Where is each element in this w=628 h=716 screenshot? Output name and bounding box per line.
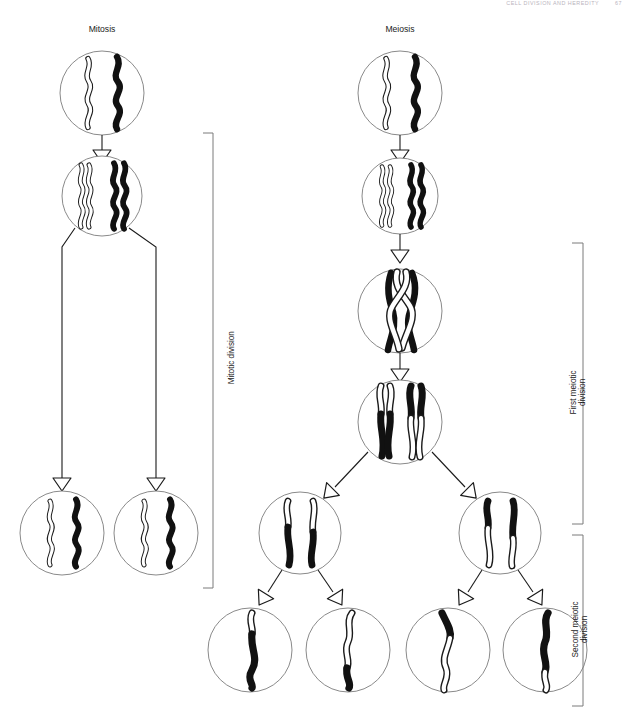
second-meiotic-division-label: Second meiotic division: [571, 549, 590, 709]
meiosis-branch: [208, 51, 587, 706]
mitosis-arrow-right: [147, 478, 165, 491]
meiosis-arrow-gamete-4: [527, 589, 549, 610]
first-meiotic-division-line2: division: [578, 322, 587, 462]
mitosis-replicated-cell: [62, 156, 142, 236]
meiosis-parent-cell: [358, 51, 442, 135]
meiosis-secondary-cell-right: [459, 492, 541, 574]
meiosis-arrow-gamete-3: [451, 589, 473, 610]
first-meiotic-division-line1: First meiotic: [569, 322, 578, 462]
second-meiotic-division-line1: Second meiotic: [571, 549, 580, 709]
meiosis-replicated-cell: [362, 158, 438, 234]
second-meiotic-division-line2: division: [580, 549, 589, 709]
meiosis-crossing-over-cell: [358, 269, 442, 353]
mitotic-division-label: Mitotic division: [227, 298, 236, 418]
meiosis-arrow-2: [391, 250, 409, 263]
meiosis-gamete-3: [406, 608, 490, 692]
meiosis-gamete-1: [208, 608, 292, 692]
mitosis-daughter-cell-2: [114, 491, 198, 575]
meiosis-secondary-cell-left: [259, 492, 341, 574]
meiosis-gamete-2: [306, 608, 390, 692]
meiosis-arrow-gamete-1: [251, 589, 273, 610]
mitosis-branch: [20, 51, 213, 588]
first-meiotic-division-label: First meiotic division: [569, 322, 588, 462]
meiosis-recombinant-cell: [358, 380, 442, 464]
mitosis-parent-cell: [60, 51, 144, 135]
mitosis-meiosis-diagram: [0, 0, 628, 716]
mitosis-daughter-cell-1: [20, 491, 104, 575]
meiosis-arrow-gamete-2: [327, 589, 349, 610]
mitosis-arrow-left: [53, 478, 71, 491]
